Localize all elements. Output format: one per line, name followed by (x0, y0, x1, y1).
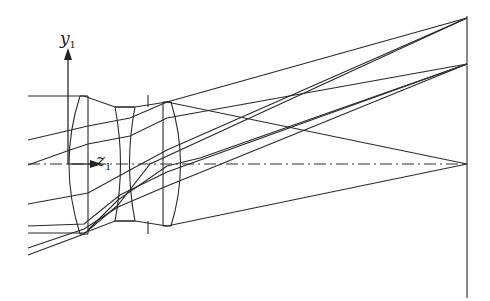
z-axis-label: z1 (96, 150, 111, 172)
lens-1 (69, 96, 88, 234)
y-axis-label: y1 (60, 28, 76, 50)
ray-bundle (28, 18, 467, 255)
